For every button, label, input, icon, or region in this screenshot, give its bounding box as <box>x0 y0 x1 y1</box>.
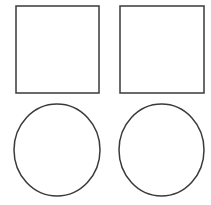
square-top-right <box>120 6 204 93</box>
circle-bottom-left <box>14 104 100 196</box>
circle-bottom-right <box>119 104 204 196</box>
shapes-canvas <box>0 0 211 205</box>
shapes-svg <box>0 0 211 205</box>
square-top-left <box>16 6 99 93</box>
